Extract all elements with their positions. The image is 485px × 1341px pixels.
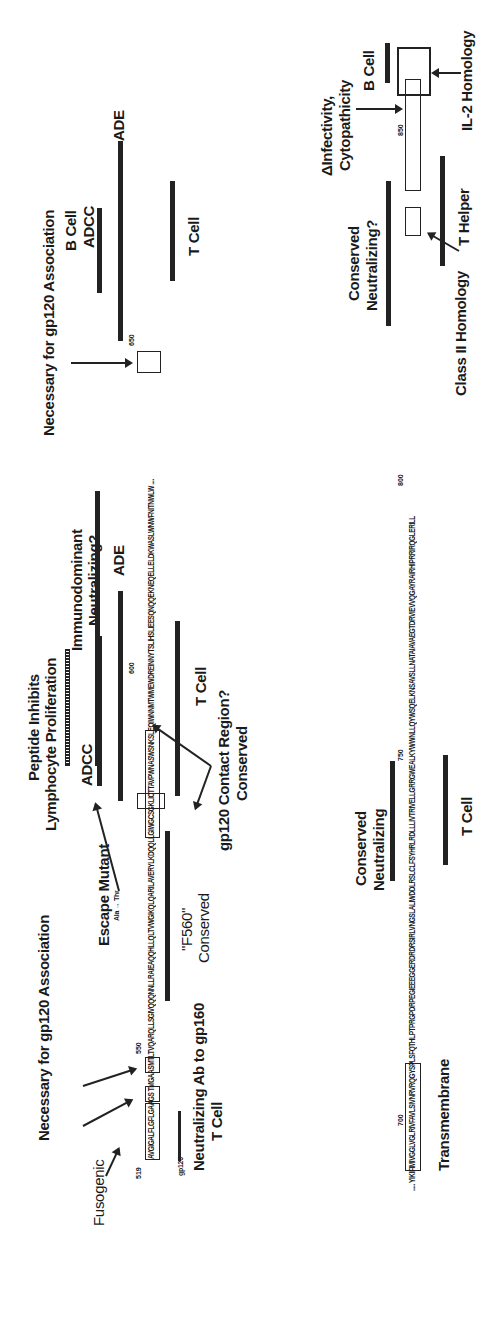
label-lymph-prolif: Lymphocyte Proliferation — [42, 658, 59, 831]
bar-t-cell-row2 — [443, 755, 448, 865]
label-contact-conserved: Conserved — [233, 726, 250, 801]
bar-t-cell-3 — [170, 181, 175, 281]
bar-t-helper — [440, 156, 445, 266]
label-gp120-assoc-1a: Necessary for gp120 Association — [35, 915, 52, 1141]
residue-850: 850 — [397, 124, 404, 136]
residue-800: 800 — [397, 474, 404, 486]
label-t-cell-row2: T Cell — [458, 797, 475, 836]
il2-outer-box — [397, 47, 431, 96]
label-peptide-inhibits: Peptide Inhibits — [25, 674, 42, 781]
label-f560-conserved: Conserved — [195, 893, 212, 963]
label-fusogenic: Fusogenic — [90, 1159, 107, 1226]
bar-ade-1 — [118, 591, 123, 801]
label-escape-sub: Ala → Thr — [113, 891, 121, 921]
label-ade-1: ADE — [110, 545, 127, 576]
residue-750: 750 — [397, 749, 404, 761]
arrow-gp120-left — [178, 1111, 181, 1161]
label-infectivity: ΔInfectivity, — [318, 96, 335, 176]
bar-f560 — [165, 831, 170, 1001]
label-adcc-2: ADCC — [80, 206, 97, 248]
class2-box — [405, 207, 421, 236]
label-class2: Class II Homology — [452, 271, 469, 396]
label-f560: "F560" — [178, 908, 195, 951]
bar-neutralizing — [95, 491, 100, 766]
label-transmembrane: Transmembrane — [435, 1059, 452, 1171]
label-immunodominant: Immunodominant — [68, 529, 85, 651]
label-t-cell-3: T Cell — [185, 217, 202, 256]
label-t-helper: T Helper — [455, 188, 472, 246]
label-neutralizing-1: Neutralizing — [370, 809, 387, 891]
arrow-gp120-assoc-tlt — [83, 1068, 136, 1087]
label-adcc-1: ADCC — [78, 744, 95, 786]
arrow-infectivity — [356, 108, 401, 110]
bar-t-cell-2 — [175, 621, 180, 796]
arrow-gp120-assoc-2 — [71, 362, 131, 364]
arrow-contact-2 — [153, 725, 211, 767]
label-cytopathicity: Cytopathicity — [336, 80, 353, 171]
bar-b-cell-adcc — [97, 208, 102, 293]
bar-ade-2 — [118, 141, 123, 341]
arrow-contact-1 — [195, 766, 212, 809]
arrow-gp120-assoc-mg — [83, 1099, 133, 1127]
seq-row2: ..... YIKIFIMIVGGLVGLRIVFAVLSIVNRVRQGYSP… — [407, 516, 418, 1191]
gp41-epitope-map: 519 550 600 650 AVGIGALFLGFLGAAGS TMGAAS… — [0, 0, 485, 1341]
residue-700: 700 — [397, 1114, 404, 1126]
residue-600: 600 — [128, 662, 135, 674]
label-b-cell-1: B Cell — [62, 210, 79, 251]
residue-519: 519 — [135, 1167, 142, 1179]
label-ade-2: ADE — [110, 110, 127, 141]
label-gp120-assoc-2: Necessary for gp120 Association — [40, 210, 57, 436]
tsl-box — [137, 351, 161, 373]
bar-neutralizing-2 — [386, 181, 391, 326]
label-conserved-1: Conserved — [352, 811, 369, 886]
label-t-cell-2: T Cell — [192, 667, 209, 706]
label-b-cell-row2: B Cell — [360, 50, 377, 91]
label-t-cell-1: T Cell — [208, 1102, 225, 1141]
bar-peptide-inhibits — [65, 649, 70, 766]
bar-b-cell-row2 — [385, 43, 390, 83]
label-neutralizing-ab: Neutralizing Ab to gp160 — [190, 1003, 207, 1171]
label-neutralizing-2: Neutralizing? — [363, 220, 380, 311]
bar-neutralizing-1 — [390, 761, 395, 881]
label-conserved-2: Conserved — [345, 226, 362, 301]
residue-650: 650 — [128, 334, 135, 346]
residue-550: 550 — [135, 1042, 142, 1054]
label-il2: IL-2 Homology — [458, 31, 475, 131]
arrow-fusogenic — [105, 1148, 119, 1176]
seq-row1-a: AVGIGALFLGFLGAAGS TMGAASMTLTVQARQLLSGIVQ… — [146, 479, 157, 1159]
arrow-il2 — [433, 72, 461, 74]
label-contact-region: gp120 Contact Region? — [215, 690, 232, 851]
